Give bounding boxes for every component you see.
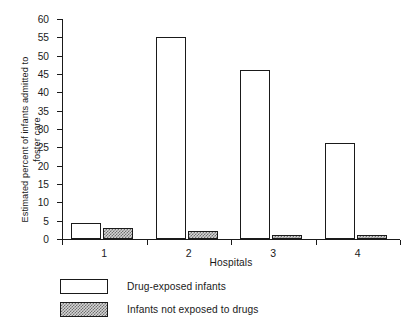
legend-label-1: Drug-exposed infants	[127, 281, 226, 292]
y-tick: 50	[57, 56, 62, 57]
bar-chart-figure: Estimated percent of infants admitted to…	[0, 0, 405, 323]
x-tick	[400, 240, 401, 245]
x-tick	[316, 240, 317, 245]
bar-3-series1	[240, 70, 270, 239]
y-tick-label: 10	[27, 197, 49, 208]
y-tick-label: 40	[27, 87, 49, 98]
y-tick: 5	[57, 221, 62, 222]
legend-label-2: Infants not exposed to drugs	[127, 304, 258, 315]
chart-legend: Drug-exposed infantsInfants not exposed …	[60, 276, 390, 322]
x-tick	[147, 240, 148, 245]
bar-1-series1	[71, 223, 101, 239]
y-tick: 10	[57, 202, 62, 203]
bar-2-series1	[156, 37, 186, 239]
y-tick-label: 60	[27, 14, 49, 25]
y-tick: 45	[57, 74, 62, 75]
y-tick: 60	[57, 19, 62, 20]
y-tick-label: 0	[27, 234, 49, 245]
legend-item-2: Infants not exposed to drugs	[60, 299, 390, 319]
y-tick: 35	[57, 111, 62, 112]
bar-4-series1	[325, 143, 355, 239]
y-tick-label: 35	[27, 105, 49, 116]
y-axis-line	[62, 19, 63, 240]
bar-2-series2	[188, 231, 218, 239]
legend-item-1: Drug-exposed infants	[60, 276, 390, 296]
x-axis-title: Hospitals	[62, 257, 400, 268]
legend-swatch-2	[60, 302, 108, 317]
y-tick-label: 15	[27, 179, 49, 190]
bar-4-series2	[357, 235, 387, 239]
y-tick-label: 20	[27, 160, 49, 171]
y-tick-label: 45	[27, 69, 49, 80]
y-tick: 15	[57, 184, 62, 185]
bar-1-series2	[103, 228, 133, 239]
y-tick: 30	[57, 129, 62, 130]
y-tick-label: 25	[27, 142, 49, 153]
y-tick: 55	[57, 37, 62, 38]
x-tick	[62, 240, 63, 245]
y-tick-label: 30	[27, 124, 49, 135]
y-tick: 20	[57, 166, 62, 167]
y-tick: 25	[57, 147, 62, 148]
plot-area: 051015202530354045505560 1234	[62, 19, 400, 240]
legend-swatch-1	[60, 279, 108, 294]
x-tick	[231, 240, 232, 245]
bar-3-series2	[272, 235, 302, 239]
y-tick-label: 5	[27, 215, 49, 226]
y-tick-label: 55	[27, 32, 49, 43]
y-tick-label: 50	[27, 50, 49, 61]
y-tick: 40	[57, 92, 62, 93]
